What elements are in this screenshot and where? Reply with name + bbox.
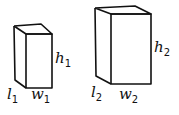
prism-2-length-label: l2 [91, 83, 102, 103]
prism-2-front-face [111, 14, 151, 84]
prisms-diagram: h1 l1 w1 h2 l2 w2 [0, 0, 179, 115]
prism-2-side-face [95, 8, 111, 84]
prism-1-side-face [14, 26, 26, 88]
prism-2-labels: h2 l2 w2 [91, 38, 170, 105]
prism-2-top-face [95, 6, 151, 14]
prism-1-height-label: h1 [55, 49, 71, 69]
prism-1-top-face [14, 24, 52, 34]
prism-1-length-label: l1 [7, 85, 18, 105]
prism-1 [14, 24, 52, 88]
prism-2-width-label: w2 [119, 85, 138, 105]
prism-2 [95, 6, 151, 84]
prism-2-height-label: h2 [154, 38, 170, 58]
prism-1-front-face [26, 34, 52, 88]
prism-1-labels: h1 l1 w1 [7, 49, 71, 105]
